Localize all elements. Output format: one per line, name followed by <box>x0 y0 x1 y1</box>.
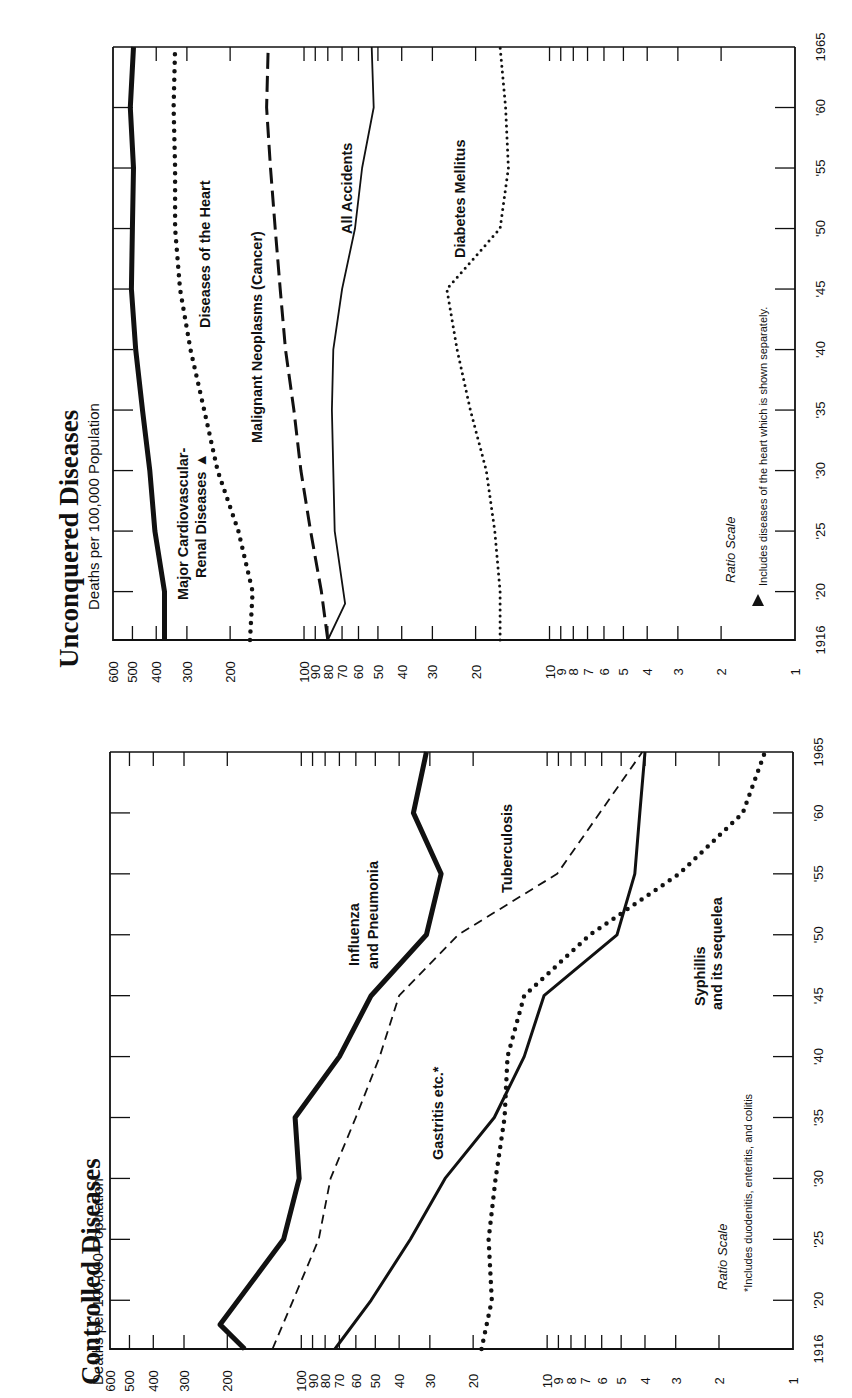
series-line <box>130 47 164 640</box>
value-tick-label: 30 <box>423 1374 438 1388</box>
series-line <box>328 47 374 640</box>
year-tick-label: '50 <box>811 926 826 943</box>
value-tick-label: 20 <box>466 1374 481 1388</box>
series-line <box>220 752 441 1349</box>
value-tick-label: 1 <box>786 1377 801 1384</box>
value-tick-label: 8 <box>566 668 581 675</box>
controlled-footnote: *Includes duodenitis, enteritis, and col… <box>742 1093 754 1292</box>
value-tick-label: 80 <box>318 1374 333 1388</box>
year-tick-label: 1965 <box>813 33 828 62</box>
value-tick-label: 40 <box>392 1374 407 1388</box>
value-tick-label: 6 <box>597 668 612 675</box>
unconquered-year-axis: 1916'20'25'30'35'40'45'50'55'601965 <box>113 33 828 655</box>
year-tick-label: '60 <box>811 804 826 821</box>
value-tick-label: 600 <box>103 1370 118 1392</box>
year-tick-label: '60 <box>813 99 828 116</box>
year-tick-label: '50 <box>813 220 828 237</box>
series-line <box>267 47 328 640</box>
value-tick-label: 50 <box>368 1374 383 1388</box>
year-tick-label: '25 <box>811 1231 826 1248</box>
label-accidents: All Accidents <box>339 143 355 234</box>
unconquered-footnote: Includes diseases of the heart which is … <box>757 307 769 586</box>
label-cvr-line2: Renal Diseases ▲ <box>193 453 209 578</box>
controlled-value-axis: 6005004003002001009080706050403020109876… <box>103 752 801 1392</box>
triangle-marker-icon <box>752 594 764 606</box>
value-tick-label: 400 <box>146 1370 161 1392</box>
value-tick-label: 7 <box>581 668 596 675</box>
controlled-plot-frame <box>110 752 793 1349</box>
value-tick-label: 7 <box>578 1377 593 1384</box>
unconquered-subtitle: Deaths per 100,000 Population <box>85 403 102 610</box>
year-tick-label: '25 <box>813 523 828 540</box>
year-tick-label: '45 <box>813 281 828 298</box>
unconquered-diseases-panel: Unconquered Diseases Deaths per 100,000 … <box>54 33 828 683</box>
label-influenza-line2: and Pneumonia <box>365 860 381 969</box>
value-tick-label: 50 <box>371 665 386 679</box>
series-line <box>447 47 509 640</box>
year-tick-label: 1916 <box>811 1335 826 1364</box>
year-tick-label: '20 <box>811 1292 826 1309</box>
value-tick-label: 600 <box>106 661 121 683</box>
label-tuberculosis: Tuberculosis <box>499 804 515 893</box>
unconquered-title: Unconquered Diseases <box>54 410 84 668</box>
label-influenza-line1: Influenza <box>346 902 362 966</box>
series-line <box>273 752 643 1349</box>
value-tick-label: 2 <box>712 1377 727 1384</box>
label-cancer: Malignant Neoplasms (Cancer) <box>249 231 265 443</box>
year-tick-label: '40 <box>813 341 828 358</box>
year-tick-label: '45 <box>811 987 826 1004</box>
label-syphilis-line1: Syphillis <box>692 946 708 1006</box>
value-tick-label: 3 <box>671 668 686 675</box>
label-heart: Diseases of the Heart <box>197 180 213 328</box>
value-tick-label: 300 <box>177 1370 192 1392</box>
year-tick-label: '20 <box>813 583 828 600</box>
value-tick-label: 4 <box>638 1377 653 1384</box>
unconquered-ratio-scale: Ratio Scale <box>723 517 738 583</box>
year-tick-label: '55 <box>813 160 828 177</box>
year-tick-label: '35 <box>811 1109 826 1126</box>
value-tick-label: 400 <box>149 661 164 683</box>
value-tick-label: 5 <box>614 1377 629 1384</box>
year-tick-label: '30 <box>813 462 828 479</box>
unconquered-plot-frame <box>113 47 795 640</box>
value-tick-label: 200 <box>220 1370 235 1392</box>
value-tick-label: 2 <box>714 668 729 675</box>
year-tick-label: '30 <box>811 1170 826 1187</box>
value-tick-label: 5 <box>616 668 631 675</box>
value-tick-label: 60 <box>349 1374 364 1388</box>
year-tick-label: '35 <box>813 402 828 419</box>
year-tick-label: '40 <box>811 1048 826 1065</box>
value-tick-label: 80 <box>321 665 336 679</box>
value-tick-label: 70 <box>335 665 350 679</box>
year-tick-label: 1916 <box>813 626 828 655</box>
chart-page: Controlled Diseases Deaths per 100,000 P… <box>0 0 852 1398</box>
value-tick-label: 20 <box>469 665 484 679</box>
year-tick-label: 1965 <box>811 738 826 767</box>
year-tick-label: '55 <box>811 865 826 882</box>
value-tick-label: 60 <box>351 665 366 679</box>
value-tick-label: 70 <box>332 1374 347 1388</box>
value-tick-label: 30 <box>425 665 440 679</box>
label-gastritis: Gastritis etc.* <box>430 1066 446 1160</box>
value-tick-label: 6 <box>595 1377 610 1384</box>
value-tick-label: 1 <box>788 668 803 675</box>
controlled-subtitle: Deaths per 100,000 Population <box>89 1178 106 1385</box>
controlled-diseases-panel: Controlled Diseases Deaths per 100,000 P… <box>76 738 826 1392</box>
chart-canvas: Controlled Diseases Deaths per 100,000 P… <box>0 0 852 1398</box>
value-tick-label: 40 <box>395 665 410 679</box>
label-diabetes: Diabetes Mellitus <box>452 140 468 258</box>
controlled-series <box>220 752 765 1349</box>
label-syphilis-line2: and its sequelea <box>709 896 725 1010</box>
value-tick-label: 300 <box>180 661 195 683</box>
value-tick-label: 500 <box>125 661 140 683</box>
value-tick-label: 8 <box>564 1377 579 1384</box>
label-cvr-line1: Major Cardiovascular- <box>175 448 191 600</box>
value-tick-label: 500 <box>122 1370 137 1392</box>
value-tick-label: 4 <box>640 668 655 675</box>
value-tick-label: 200 <box>223 661 238 683</box>
value-tick-label: 3 <box>669 1377 684 1384</box>
controlled-ratio-scale: Ratio Scale <box>715 1224 730 1290</box>
